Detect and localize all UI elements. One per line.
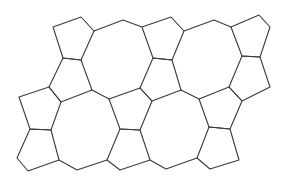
pentagon-p-right-middle: [199, 87, 242, 129]
edge-e-top-1: [94, 20, 142, 31]
pentagon-p-bottom-left: [17, 129, 59, 171]
edge-e-mid-2: [181, 90, 199, 99]
pentagon-p-top-left: [53, 17, 94, 60]
edge-e-top-2: [184, 20, 231, 31]
edge-e-mid-1: [92, 90, 109, 99]
pentagon-p-top-middle: [142, 17, 184, 60]
pentagon-p-middle: [109, 88, 152, 130]
pentagon-p-bottom-middle: [107, 129, 150, 170]
pentagon-p-bottom-right: [197, 127, 239, 169]
edge-e-bottom-1: [59, 160, 107, 170]
pentagon-p-top-right: [231, 15, 270, 57]
edge-e-bottom-2: [150, 158, 197, 169]
tiling-svg: [0, 0, 283, 184]
tiling-diagram: [0, 0, 283, 184]
pentagon-p-left: [19, 87, 61, 130]
